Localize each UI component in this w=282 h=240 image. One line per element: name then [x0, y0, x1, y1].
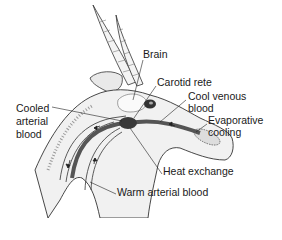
label-cool-venous-blood-line2: blood: [188, 102, 214, 114]
label-heat-exchange: Heat exchange: [163, 165, 234, 177]
carotid-rete: [119, 117, 137, 129]
label-evaporative-cooling-line2: cooling: [208, 126, 241, 138]
label-evaporative-cooling-line1: Evaporative: [208, 114, 263, 126]
label-carotid-rete: Carotid rete: [157, 76, 212, 88]
brain-region: [118, 94, 147, 112]
label-cooled-arterial-blood-line1: Cooled: [16, 102, 49, 114]
label-cooled-arterial-blood-line2: arterial: [16, 115, 48, 127]
label-brain: Brain: [143, 48, 168, 60]
label-warm-arterial-blood: Warm arterial blood: [117, 186, 208, 198]
label-cooled-arterial-blood-line3: blood: [16, 128, 42, 140]
label-cool-venous-blood-line1: Cool venous: [188, 90, 246, 102]
ear: [90, 72, 122, 92]
